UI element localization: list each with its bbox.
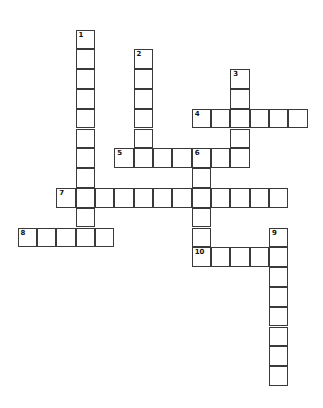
crossword-cell[interactable] — [76, 148, 95, 168]
crossword-cell[interactable]: 2 — [134, 49, 153, 69]
clue-number: 2 — [137, 51, 142, 58]
crossword-cell[interactable] — [172, 188, 191, 208]
crossword-cell[interactable] — [269, 188, 288, 208]
crossword-cell[interactable] — [269, 267, 288, 287]
crossword-cell[interactable] — [211, 148, 230, 168]
crossword-cell[interactable] — [211, 109, 230, 129]
crossword-cell[interactable] — [56, 228, 75, 248]
crossword-cell[interactable] — [134, 89, 153, 109]
crossword-cell[interactable] — [95, 188, 114, 208]
crossword-cell[interactable] — [230, 188, 249, 208]
crossword-cell[interactable] — [269, 366, 288, 386]
crossword-cell[interactable] — [230, 148, 249, 168]
crossword-cell[interactable] — [76, 188, 95, 208]
crossword-cell[interactable]: 10 — [192, 247, 211, 267]
clue-number: 8 — [21, 230, 26, 237]
crossword-cell[interactable]: 8 — [18, 228, 37, 248]
crossword-cell[interactable]: 4 — [192, 109, 211, 129]
clue-number: 4 — [195, 111, 200, 118]
crossword-cell[interactable] — [134, 148, 153, 168]
crossword-cell[interactable] — [192, 188, 211, 208]
crossword-cell[interactable]: 6 — [192, 148, 211, 168]
crossword-cell[interactable] — [250, 247, 269, 267]
crossword-cell[interactable] — [192, 208, 211, 228]
crossword-cell[interactable] — [269, 109, 288, 129]
crossword-cell[interactable]: 7 — [56, 188, 75, 208]
crossword-cell[interactable] — [192, 168, 211, 188]
crossword-cell[interactable]: 5 — [114, 148, 133, 168]
crossword-cell[interactable] — [76, 69, 95, 89]
crossword-cell[interactable] — [134, 109, 153, 129]
crossword-cell[interactable] — [153, 188, 172, 208]
crossword-cell[interactable] — [76, 49, 95, 69]
clue-number: 7 — [59, 190, 64, 197]
crossword-cell[interactable] — [76, 89, 95, 109]
crossword-cell[interactable] — [134, 188, 153, 208]
crossword-cell[interactable]: 1 — [76, 30, 95, 50]
crossword-cell[interactable]: 9 — [269, 228, 288, 248]
crossword-cell[interactable] — [230, 109, 249, 129]
crossword-cell[interactable] — [211, 247, 230, 267]
crossword-cell[interactable] — [250, 109, 269, 129]
crossword-cell[interactable] — [172, 148, 191, 168]
crossword-cell[interactable] — [192, 228, 211, 248]
crossword-cell[interactable] — [37, 228, 56, 248]
crossword-cell[interactable] — [114, 188, 133, 208]
crossword-cell[interactable] — [153, 148, 172, 168]
crossword-cell[interactable] — [269, 346, 288, 366]
clue-number: 6 — [195, 150, 200, 157]
crossword-cell[interactable] — [76, 129, 95, 149]
crossword-cell[interactable] — [95, 228, 114, 248]
crossword-cell[interactable] — [211, 188, 230, 208]
crossword-cell[interactable] — [269, 327, 288, 347]
crossword-cell[interactable] — [269, 307, 288, 327]
clue-number: 1 — [79, 32, 84, 39]
crossword-grid: 12345610789 — [0, 0, 323, 408]
clue-number: 9 — [272, 230, 277, 237]
crossword-cell[interactable] — [76, 228, 95, 248]
clue-number: 10 — [195, 249, 205, 256]
crossword-cell[interactable] — [288, 109, 307, 129]
crossword-cell[interactable] — [269, 287, 288, 307]
clue-number: 3 — [233, 71, 238, 78]
crossword-cell[interactable] — [230, 247, 249, 267]
crossword-cell[interactable] — [76, 168, 95, 188]
crossword-cell[interactable] — [76, 109, 95, 129]
crossword-cell[interactable]: 3 — [230, 69, 249, 89]
crossword-cell[interactable] — [230, 129, 249, 149]
clue-number: 5 — [117, 150, 122, 157]
crossword-cell[interactable] — [134, 129, 153, 149]
crossword-cell[interactable] — [134, 69, 153, 89]
crossword-cell[interactable] — [76, 208, 95, 228]
crossword-cell[interactable] — [250, 188, 269, 208]
crossword-cell[interactable] — [269, 247, 288, 267]
crossword-cell[interactable] — [230, 89, 249, 109]
